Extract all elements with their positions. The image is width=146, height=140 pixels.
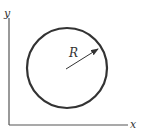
radius-label: R [68,46,78,60]
x-axis-label: x [130,118,137,131]
circle-diagram: y x R [0,0,146,140]
y-axis-label: y [3,7,11,20]
